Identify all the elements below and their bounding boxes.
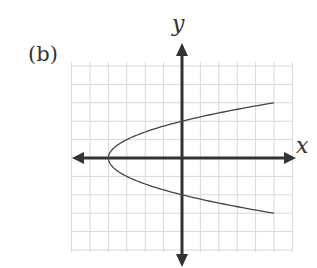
y-axis-label: y — [171, 11, 185, 36]
axes — [72, 43, 296, 267]
y-axis-up-arrow-icon — [176, 43, 188, 56]
x-axis-right-arrow-icon — [284, 152, 296, 164]
panel-label: (b) — [28, 42, 58, 66]
parabola-figure: (b) y x — [0, 0, 317, 268]
x-axis-label: x — [296, 133, 309, 158]
y-axis-down-arrow-icon — [176, 254, 188, 267]
x-axis-left-arrow-icon — [72, 152, 84, 164]
